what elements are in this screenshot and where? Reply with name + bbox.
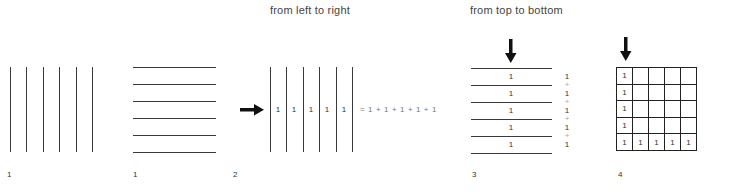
- row-value: 1: [507, 107, 515, 115]
- grid-cell: [665, 84, 681, 101]
- grid-row: 1: [617, 117, 697, 134]
- grid-row: 1 1 1 1 1: [617, 134, 697, 151]
- row-value: 1: [507, 90, 515, 98]
- sum-equation: = 1 + 1 + 1 + 1 + 1: [360, 105, 437, 114]
- horizontal-line: [133, 135, 216, 136]
- arrow-down-icon: [505, 39, 517, 64]
- grid-cell: 1: [665, 134, 681, 151]
- horizontal-line: [471, 153, 552, 154]
- arrow-down-icon: [620, 37, 632, 62]
- title-left-to-right: from left to right: [270, 4, 350, 16]
- grid-cell: [633, 101, 649, 118]
- grid-row: 1: [617, 68, 697, 85]
- grid-cell: [633, 84, 649, 101]
- plus-sign: +: [563, 132, 571, 140]
- cell-value: 1: [307, 106, 315, 114]
- grid-cell: 1: [649, 134, 665, 151]
- grid-cell: 1: [617, 134, 633, 151]
- arrow-right-icon: [240, 104, 265, 116]
- grid-cell: 1: [617, 117, 633, 134]
- plus-sign: +: [563, 98, 571, 106]
- vertical-line: [336, 67, 337, 152]
- row-value: 1: [507, 141, 515, 149]
- row-value: 1: [507, 124, 515, 132]
- grid-row: 1: [617, 84, 697, 101]
- grid-cell: [649, 68, 665, 85]
- horizontal-line: [471, 119, 552, 120]
- grid-cell: [665, 101, 681, 118]
- grid-cell: [681, 117, 697, 134]
- vertical-line: [10, 67, 11, 152]
- sum-term: 1: [563, 141, 571, 149]
- figure-label-2: 2: [233, 170, 237, 179]
- horizontal-line: [133, 118, 216, 119]
- figure-label-4: 4: [618, 170, 622, 179]
- grid-cell: [633, 68, 649, 85]
- grid-cell: [681, 101, 697, 118]
- grid-cell: 1: [633, 134, 649, 151]
- horizontal-line: [133, 101, 216, 102]
- grid-cell: [649, 101, 665, 118]
- vertical-line: [303, 67, 304, 152]
- grid-cell: [681, 68, 697, 85]
- grid-cell: [633, 117, 649, 134]
- cell-value: 1: [290, 106, 298, 114]
- grid-cell: [665, 117, 681, 134]
- vertical-line: [286, 67, 287, 152]
- horizontal-line: [471, 85, 552, 86]
- unit-grid: 1 1 1 1 1 1: [616, 67, 697, 151]
- grid-cell: 1: [617, 101, 633, 118]
- vertical-line: [76, 67, 77, 152]
- figure-label-3: 3: [472, 170, 476, 179]
- vertical-line: [26, 67, 27, 152]
- grid-cell: [665, 68, 681, 85]
- figure-label-1a: 1: [7, 170, 11, 179]
- vertical-line: [92, 67, 93, 152]
- vertical-line: [352, 67, 353, 152]
- grid-cell: [649, 117, 665, 134]
- vertical-line: [319, 67, 320, 152]
- horizontal-line: [133, 152, 216, 153]
- horizontal-line: [471, 102, 552, 103]
- plus-sign: +: [563, 81, 571, 89]
- row-value: 1: [507, 73, 515, 81]
- cell-value: 1: [340, 106, 348, 114]
- horizontal-line: [471, 136, 552, 137]
- grid-cell: 1: [617, 84, 633, 101]
- cell-value: 1: [323, 106, 331, 114]
- figure-label-1b: 1: [133, 170, 137, 179]
- grid-cell: [649, 84, 665, 101]
- horizontal-line: [133, 67, 216, 68]
- horizontal-line: [133, 84, 216, 85]
- plus-sign: +: [563, 115, 571, 123]
- grid-cell: 1: [681, 134, 697, 151]
- cell-value: 1: [274, 106, 282, 114]
- grid-cell: [681, 84, 697, 101]
- vertical-line: [59, 67, 60, 152]
- grid-row: 1: [617, 101, 697, 118]
- horizontal-line: [471, 68, 552, 69]
- vertical-line: [43, 67, 44, 152]
- title-top-to-bottom: from top to bottom: [470, 4, 563, 16]
- vertical-line: [270, 67, 271, 152]
- grid-cell: 1: [617, 68, 633, 85]
